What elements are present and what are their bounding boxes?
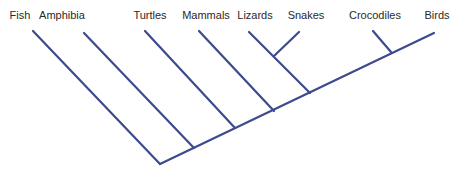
- main-spine: [160, 33, 434, 164]
- branch-amphibia: [84, 33, 194, 148]
- branch-turtles: [145, 31, 235, 128]
- branch-lizards: [249, 32, 310, 93]
- tree-branches: [0, 0, 467, 177]
- branch-fish: [33, 31, 160, 164]
- branch-mammals: [199, 31, 274, 111]
- branch-crocodiles: [373, 31, 391, 52]
- branch-snakes: [274, 32, 299, 56]
